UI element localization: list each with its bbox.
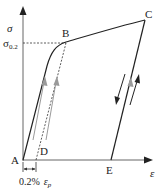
- point-d-label: D: [40, 145, 48, 157]
- x-axis-arrow-icon: [144, 157, 153, 164]
- y-axis-label: σ: [7, 22, 13, 34]
- unload-arrow-head-icon: [115, 96, 121, 105]
- sigma-02-label: σ0.2: [3, 37, 18, 51]
- loading-arrow-2: [46, 82, 56, 140]
- offset-dim-arrow-right-icon: [32, 168, 36, 171]
- x-axis-label: ε: [150, 167, 155, 179]
- unload-arrow: [117, 74, 125, 100]
- loading-arrow-2-head-icon: [54, 76, 60, 86]
- offset-annotation: 0.2%εp: [19, 176, 52, 189]
- unloading-line: [111, 20, 145, 160]
- offset-dim-arrow-left-icon: [24, 168, 28, 171]
- point-e-label: E: [106, 164, 113, 176]
- reload-arrow-head-icon: [135, 74, 141, 84]
- loading-arrow-1: [33, 82, 44, 140]
- point-c-label: C: [145, 8, 152, 20]
- reload-gray-arrow-head-icon: [128, 77, 134, 87]
- point-b-label: B: [62, 27, 69, 39]
- stress-strain-diagram: σ σ0.2 B C A D E ε 0.2%εp: [0, 0, 161, 192]
- y-axis-arrow-icon: [20, 6, 27, 15]
- loading-arrow-1-head-icon: [42, 76, 48, 86]
- point-a-label: A: [11, 154, 19, 166]
